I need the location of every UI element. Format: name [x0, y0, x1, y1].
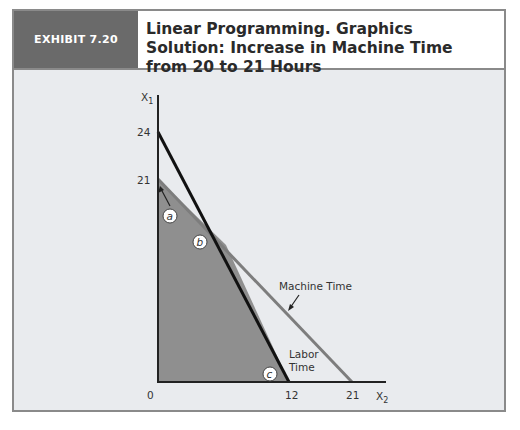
x-tick-21: 21 — [346, 389, 359, 401]
labor-time-label-line1: Labor — [289, 348, 319, 360]
y-tick-21: 21 — [137, 174, 150, 186]
feasible-region — [158, 179, 289, 382]
point-b-label: b — [197, 236, 204, 248]
labor-time-label-line2: Time — [288, 361, 315, 373]
x-tick-12: 12 — [285, 389, 298, 401]
y-axis-label: X1 — [141, 91, 153, 106]
machine-time-label: Machine Time — [279, 280, 352, 292]
point-a-label: a — [167, 210, 173, 222]
lp-chart: X1 X2 24 21 0 12 21 a b c Machine Time L… — [0, 0, 520, 430]
x-tick-0: 0 — [147, 389, 154, 401]
arrowhead-icon — [288, 304, 294, 311]
point-c-label: c — [267, 368, 273, 380]
y-tick-24: 24 — [137, 126, 151, 138]
x-axis-label: X2 — [376, 390, 388, 405]
